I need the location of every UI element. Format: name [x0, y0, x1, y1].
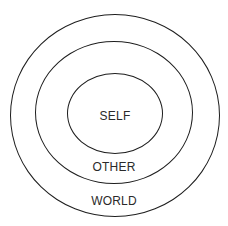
self-label: SELF: [1, 110, 228, 122]
other-label: OTHER: [0, 161, 228, 173]
world-label: WORLD: [0, 195, 228, 207]
concentric-circles-diagram: SELF OTHER WORLD: [0, 0, 228, 226]
